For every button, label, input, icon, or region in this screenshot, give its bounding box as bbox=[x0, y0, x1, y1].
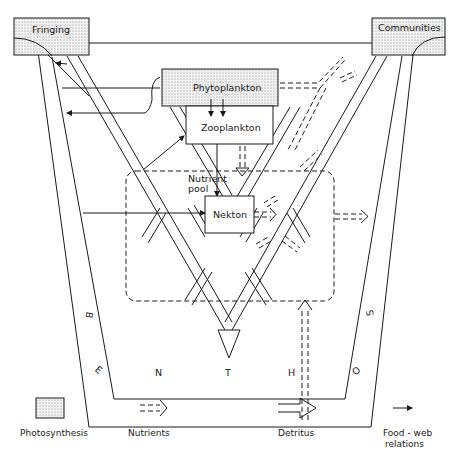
food-web-arrow bbox=[56, 63, 67, 64]
svg-text:S: S bbox=[364, 309, 376, 317]
detritus-arrowhead bbox=[218, 330, 240, 358]
brace bbox=[145, 77, 160, 113]
ecosystem-diagram: Fringing Communities Phytoplankton Zoopl… bbox=[0, 0, 456, 457]
zooplankton-box: Zooplankton bbox=[186, 106, 273, 144]
communities-box: Communities bbox=[372, 18, 445, 56]
svg-text:B: B bbox=[83, 311, 95, 319]
photosynthesis-swatch bbox=[36, 398, 64, 418]
legend-food-web-2: relations bbox=[385, 439, 424, 449]
phytoplankton-label: Phytoplankton bbox=[193, 82, 261, 93]
legend-nutrients: Nutrients bbox=[128, 428, 170, 438]
fringing-box: Fringing bbox=[14, 18, 89, 56]
food-web-arrow bbox=[143, 136, 184, 170]
svg-text:N: N bbox=[155, 367, 162, 378]
communities-label: Communities bbox=[378, 22, 441, 33]
nekton-box: Nekton bbox=[205, 196, 254, 233]
svg-text:E: E bbox=[93, 364, 105, 376]
fringing-label: Fringing bbox=[32, 24, 70, 35]
svg-text:H: H bbox=[288, 367, 295, 378]
nutrient-pool-label-2: pool bbox=[188, 183, 208, 194]
phytoplankton-box: Phytoplankton bbox=[162, 69, 278, 106]
legend-food-web-1: Food - web bbox=[383, 428, 432, 438]
legend-photosynthesis: Photosynthesis bbox=[20, 428, 88, 438]
legend-detritus: Detritus bbox=[278, 428, 314, 438]
legend: Photosynthesis Nutrients Detritus Food -… bbox=[20, 398, 432, 449]
nutrient-pool-region bbox=[126, 171, 334, 301]
zooplankton-label: Zooplankton bbox=[201, 122, 261, 133]
svg-text:T: T bbox=[224, 367, 231, 378]
nekton-label: Nekton bbox=[213, 209, 247, 220]
svg-text:O: O bbox=[350, 364, 363, 377]
